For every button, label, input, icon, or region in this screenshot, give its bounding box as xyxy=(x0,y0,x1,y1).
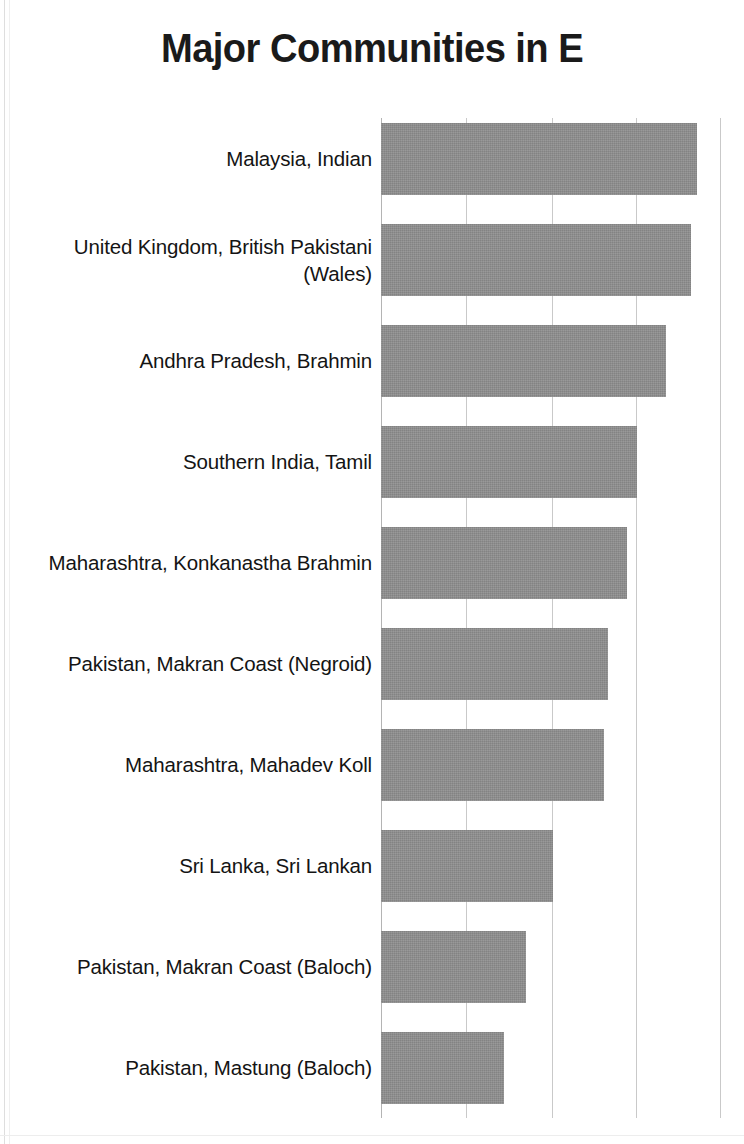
bar xyxy=(381,325,666,397)
bar xyxy=(381,123,697,195)
chart-title: Major Communities in E xyxy=(26,24,718,72)
category-label-text: Malaysia, Indian xyxy=(14,145,372,172)
category-label: Pakistan, Makran Coast (Baloch) xyxy=(14,916,372,1017)
category-label-text: Maharashtra, Mahadev Koll xyxy=(14,751,372,778)
bar-row: Maharashtra, Konkanastha Brahmin xyxy=(0,512,744,613)
bar-row: Sri Lanka, Sri Lankan xyxy=(0,815,744,916)
category-label-text: Sri Lanka, Sri Lankan xyxy=(14,852,372,879)
bar-row: Maharashtra, Mahadev Koll xyxy=(0,714,744,815)
category-label-text: Andhra Pradesh, Brahmin xyxy=(14,347,372,374)
category-label: Pakistan, Makran Coast (Negroid) xyxy=(14,613,372,714)
category-label: Malaysia, Indian xyxy=(14,108,372,209)
bar-row: Pakistan, Makran Coast (Negroid) xyxy=(0,613,744,714)
bar xyxy=(381,830,553,902)
category-label: Southern India, Tamil xyxy=(14,411,372,512)
scan-artifact-bottom-edge xyxy=(0,1135,744,1136)
bar-row: United Kingdom, British Pakistani (Wales… xyxy=(0,209,744,310)
category-label: Sri Lanka, Sri Lankan xyxy=(14,815,372,916)
bar xyxy=(381,628,608,700)
bar xyxy=(381,729,604,801)
category-label-text: Pakistan, Makran Coast (Negroid) xyxy=(14,650,372,677)
bar xyxy=(381,426,637,498)
bar-row: Pakistan, Mastung (Baloch) xyxy=(0,1017,744,1118)
chart-page: Major Communities in E Malaysia, IndianU… xyxy=(0,0,744,1144)
bar xyxy=(381,931,526,1003)
bar xyxy=(381,224,691,296)
bar xyxy=(381,527,627,599)
category-label-text: Southern India, Tamil xyxy=(14,448,372,475)
category-label: Andhra Pradesh, Brahmin xyxy=(14,310,372,411)
bar-row: Malaysia, Indian xyxy=(0,108,744,209)
bar xyxy=(381,1032,504,1104)
category-label-text: United Kingdom, British Pakistani (Wales… xyxy=(14,233,372,287)
bar-row: Pakistan, Makran Coast (Baloch) xyxy=(0,916,744,1017)
bar-row: Southern India, Tamil xyxy=(0,411,744,512)
category-label-text: Pakistan, Makran Coast (Baloch) xyxy=(14,953,372,980)
category-label: United Kingdom, British Pakistani (Wales… xyxy=(14,209,372,310)
bar-row: Andhra Pradesh, Brahmin xyxy=(0,310,744,411)
bar-rows-group: Malaysia, IndianUnited Kingdom, British … xyxy=(0,108,744,1118)
bar-chart-plot-area: Malaysia, IndianUnited Kingdom, British … xyxy=(0,108,744,1118)
category-label: Maharashtra, Konkanastha Brahmin xyxy=(14,512,372,613)
category-label: Pakistan, Mastung (Baloch) xyxy=(14,1017,372,1118)
category-label: Maharashtra, Mahadev Koll xyxy=(14,714,372,815)
category-label-text: Pakistan, Mastung (Baloch) xyxy=(14,1054,372,1081)
category-label-text: Maharashtra, Konkanastha Brahmin xyxy=(14,549,372,576)
